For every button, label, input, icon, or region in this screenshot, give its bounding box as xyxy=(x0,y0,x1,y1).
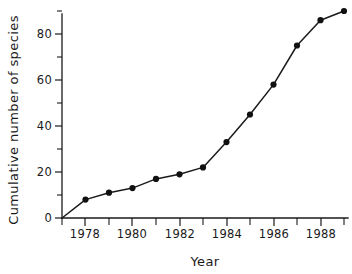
x-tick-label-1984: 1984 xyxy=(212,227,242,241)
y-tick-label-40: 40 xyxy=(37,119,52,133)
data-point xyxy=(176,171,182,177)
data-point xyxy=(270,82,276,88)
data-series-cumulative-species xyxy=(62,8,347,218)
y-tick-label-0: 0 xyxy=(44,211,52,225)
y-axis-title: Cumulative number of species xyxy=(6,15,21,225)
x-axis-title: Year xyxy=(189,254,219,269)
data-point xyxy=(247,111,253,117)
data-point xyxy=(82,197,88,203)
x-tick-label-1978: 1978 xyxy=(70,227,100,241)
series-markers xyxy=(82,8,347,203)
data-point xyxy=(129,185,135,191)
y-tick-label-60: 60 xyxy=(37,73,52,87)
x-tick-label-1982: 1982 xyxy=(165,227,195,241)
y-axis-ticks xyxy=(55,11,62,218)
series-line xyxy=(62,11,344,218)
data-point xyxy=(200,164,206,170)
x-axis-ticks xyxy=(62,218,344,226)
data-point xyxy=(223,139,229,145)
x-tick-label-1988: 1988 xyxy=(306,227,336,241)
cumulative-species-line-chart: 0 20 40 60 80 1978 1980 1982 xyxy=(0,0,352,274)
data-point xyxy=(317,17,323,23)
y-tick-label-20: 20 xyxy=(37,165,52,179)
x-tick-label-1980: 1980 xyxy=(117,227,147,241)
chart-figure: 0 20 40 60 80 1978 1980 1982 xyxy=(0,0,352,274)
data-point xyxy=(106,190,112,196)
data-point xyxy=(153,176,159,182)
axes xyxy=(62,14,348,218)
y-axis-tick-labels: 0 20 40 60 80 xyxy=(37,27,52,225)
x-axis-tick-labels: 1978 1980 1982 1984 1986 1988 xyxy=(70,227,336,241)
data-point xyxy=(341,8,347,14)
data-point xyxy=(294,42,300,48)
x-tick-label-1986: 1986 xyxy=(259,227,289,241)
y-tick-label-80: 80 xyxy=(37,27,52,41)
